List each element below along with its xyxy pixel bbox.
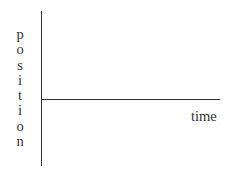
y-letter: n xyxy=(13,134,27,149)
y-letter: p xyxy=(13,27,27,42)
x-axis-label: time xyxy=(191,108,217,125)
y-letter: i xyxy=(13,73,27,88)
y-axis-label: p o s i t i o n xyxy=(13,27,27,149)
y-letter: i xyxy=(13,103,27,118)
y-letter: s xyxy=(13,58,27,73)
y-axis xyxy=(41,11,42,166)
y-letter: o xyxy=(13,42,27,57)
y-letter: o xyxy=(13,119,27,134)
y-letter: t xyxy=(13,88,27,103)
horizontal-line xyxy=(41,99,220,100)
